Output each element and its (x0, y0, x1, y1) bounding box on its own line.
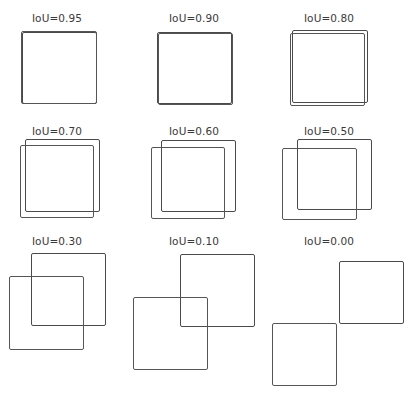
iou-label: IoU=0.80 (304, 12, 354, 24)
bounding-box-b (290, 33, 365, 106)
bounding-box-b (272, 323, 337, 386)
bounding-box-b (133, 297, 208, 370)
iou-diagram: IoU=0.95 IoU=0.90 IoU=0.80 IoU=0.70 IoU=… (0, 0, 415, 398)
bounding-box-b (158, 33, 233, 105)
iou-label: IoU=0.90 (169, 12, 219, 24)
iou-label: IoU=0.30 (32, 235, 82, 247)
iou-label: IoU=0.10 (169, 235, 219, 247)
bounding-box-a (339, 261, 404, 324)
bounding-box-b (151, 147, 225, 219)
bounding-box-b (9, 276, 84, 350)
iou-label: IoU=0.70 (32, 125, 82, 137)
bounding-box-b (282, 148, 357, 220)
iou-label: IoU=0.60 (169, 125, 219, 137)
bounding-box-b (20, 145, 94, 218)
iou-label: IoU=0.00 (304, 235, 354, 247)
iou-label: IoU=0.95 (32, 12, 82, 24)
iou-label: IoU=0.50 (304, 125, 354, 137)
bounding-box-b (21, 31, 97, 104)
